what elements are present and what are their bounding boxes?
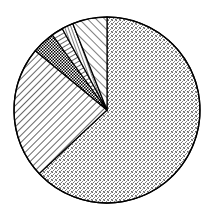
- pie-slices: [14, 17, 200, 203]
- pie-chart: [0, 0, 209, 214]
